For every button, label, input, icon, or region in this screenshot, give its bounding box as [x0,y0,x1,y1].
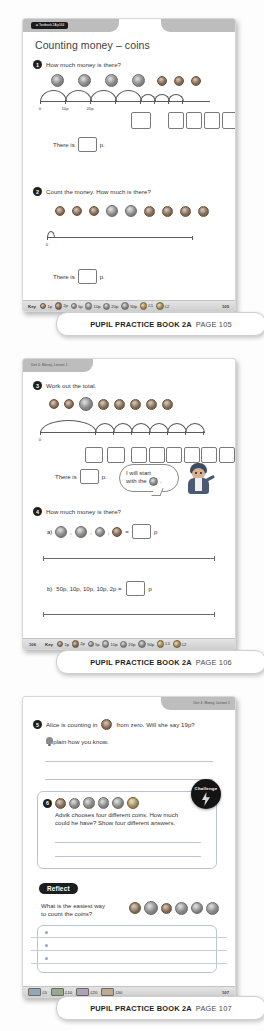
answer-box[interactable] [168,112,184,129]
answer-unit: p. [102,474,107,480]
answer-rule[interactable] [55,856,201,857]
question-3-row: 3 Work out the total. [33,381,96,390]
answer-rule[interactable] [31,937,227,938]
coin-5p [95,527,105,537]
answer-box[interactable] [80,469,99,484]
question-3-coins [49,397,173,411]
coin-5p-icon [88,641,94,647]
key-item-pound1: £1 [157,640,170,647]
caption-book: PUPIL PRACTICE BOOK 2A [90,658,192,667]
key-item-pound2: £2 [173,640,187,648]
rule-bar [43,614,215,615]
character-eye [195,472,197,474]
page-panel-106: Unit 4: Money, Lesson 1 3 Work out the t… [22,358,236,650]
coin-2p [55,798,66,809]
character-arm [205,475,215,483]
page-title: Counting money – coins [35,39,150,51]
challenge-badge: Challenge [191,779,221,809]
number-line-label-20p: 20p [87,106,94,111]
question-number: 1 [33,60,42,69]
note-50-pound-icon [101,988,114,996]
number-line-hop [47,231,55,238]
coin-2p-icon [55,302,62,309]
number-line-label-0: 0 [39,437,41,442]
answer-rule[interactable] [55,842,201,843]
answer-box[interactable] [204,112,220,129]
question-number: 2 [33,187,42,196]
answer-box[interactable] [131,112,151,129]
answer-box[interactable] [132,524,151,539]
key-item-10p: 10p [102,640,117,647]
coin-50p-icon [149,477,158,486]
answer-rule[interactable] [45,779,213,780]
number-line-hop [185,423,205,433]
answer-box[interactable] [78,269,97,284]
coin-20p [191,902,203,914]
equals-sign: = [125,529,129,535]
answer-box[interactable] [219,447,235,463]
answer-box[interactable] [131,447,147,463]
coin-50p [112,797,124,809]
key-item-pound50: £50 [101,988,122,996]
coin-5p [161,903,172,914]
answer-box[interactable] [184,447,200,463]
coin-2p-icon [101,719,112,730]
lightbulb-icon [46,737,53,746]
key-item-20p: 20p [120,641,135,648]
coin-5p [125,205,137,217]
answer-rule[interactable] [45,761,213,762]
answer-rule[interactable] [31,950,227,951]
key-item-50p: 50p [121,302,137,310]
reflect-question-line-1: What is the easiest way [41,902,125,910]
explain-text: Explain how you know. [46,737,109,746]
answer-box[interactable] [126,581,145,596]
question-number: 4 [33,507,42,516]
answer-box[interactable] [78,137,97,152]
answer-box[interactable] [166,447,182,463]
textbook-reference-chip: ◄ Textbook 2A p164 [31,22,68,29]
there-is-label: There is [53,274,75,280]
rule-cap-right [214,612,215,617]
answer-rule[interactable] [31,963,227,964]
speech-line-1: I will start [126,470,172,478]
answer-box[interactable] [201,447,217,463]
coin-2p [112,527,122,537]
coin-1-pound [127,797,139,809]
key-item-20p: 20p [103,303,118,310]
coin-50p [206,902,219,915]
number-line-tick [192,236,193,240]
character-illustration [185,463,217,497]
note-5-pound-icon [28,988,41,996]
coin-2p [130,399,141,410]
coin-2p [162,399,173,410]
coin-1-pound-icon [140,302,147,309]
speech-line-2: with the . [126,477,172,486]
number-line-label-0: 0 [39,106,41,111]
number-line-hop [149,423,169,433]
question-6-text: Advik chooses four different coins. How … [55,811,183,828]
coin-2p [114,399,125,410]
answer-box[interactable] [149,447,165,463]
answer-box[interactable] [85,447,103,463]
answer-unit: p. [100,274,105,280]
answer-box[interactable] [107,447,125,463]
number-line-hop [40,90,67,102]
reflect-badge: Reflect [39,883,78,894]
page-number: 105 [222,304,229,309]
answer-box[interactable] [186,112,202,129]
coin-10p [51,74,64,87]
lightning-bolt-icon [202,792,210,806]
number-line-hop [90,90,117,102]
number-line-hop [131,423,151,433]
coin-2-pound-icon [173,640,181,648]
reflect-coins [129,901,219,915]
key-item-50p: 50p [138,640,154,648]
coin-1p [72,206,82,216]
question-text-after: from zero. Will she say 19p? [116,720,194,729]
question-1-answer-prompt: There is p. [53,137,105,152]
number-line-label-10p: 10p [62,106,69,111]
coin-10p [132,74,145,87]
question-text: How much money is there? [46,60,121,69]
answer-box[interactable] [222,112,236,129]
coin-2p [198,206,209,217]
